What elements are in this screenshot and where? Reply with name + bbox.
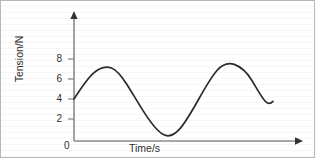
y-tick-label-8: 8 (48, 54, 62, 64)
origin-label: 0 (64, 141, 70, 151)
y-tick-label-2: 2 (48, 114, 62, 124)
tension-curve (74, 64, 273, 136)
x-axis-label: Time/s (129, 142, 160, 154)
x-axis-arrow-icon (295, 137, 303, 144)
y-tick-label-6: 6 (48, 74, 62, 84)
chart-figure: 8 6 4 2 0 Tension/N Time/s (0, 0, 315, 158)
y-axis-arrow-icon (70, 11, 77, 19)
y-axis-label: Tension/N (13, 23, 25, 95)
y-tick-label-4: 4 (48, 94, 62, 104)
